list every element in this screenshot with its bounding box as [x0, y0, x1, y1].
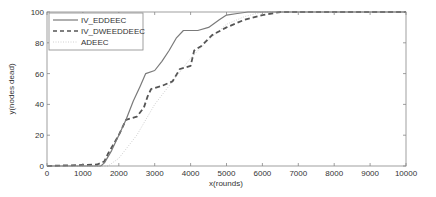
y-tick-label: 20: [35, 131, 44, 140]
x-tick-label: 2000: [110, 169, 128, 178]
y-tick-label: 60: [35, 70, 44, 79]
x-tick-label: 5000: [218, 169, 236, 178]
x-tick-label: 0: [45, 169, 50, 178]
y-axis-label: y(nodes dead): [7, 63, 16, 114]
x-tick-label: 6000: [254, 169, 272, 178]
y-tick-label: 80: [35, 39, 44, 48]
legend-label-iv-eddeec: IV_EDDEEC: [81, 16, 127, 25]
chart: 0100020003000400050006000700080009000100…: [0, 0, 436, 197]
x-tick-label: 10000: [395, 169, 418, 178]
x-tick-label: 9000: [361, 169, 379, 178]
legend-label-iv-dweeddeec: IV_DWEEDDEEC: [81, 27, 145, 36]
y-tick-label: 100: [31, 8, 45, 17]
legend-label-adeec: ADEEC: [81, 38, 109, 47]
legend: IV_EDDEEC IV_DWEEDDEEC ADEEC: [49, 13, 145, 50]
y-tick-label: 0: [40, 162, 45, 171]
x-tick-label: 8000: [325, 169, 343, 178]
x-tick-label: 4000: [182, 169, 200, 178]
y-tick-label: 40: [35, 100, 44, 109]
x-tick-label: 3000: [146, 169, 164, 178]
x-axis-label: x(rounds): [209, 179, 243, 188]
x-tick-label: 7000: [289, 169, 307, 178]
x-tick-label: 1000: [74, 169, 92, 178]
